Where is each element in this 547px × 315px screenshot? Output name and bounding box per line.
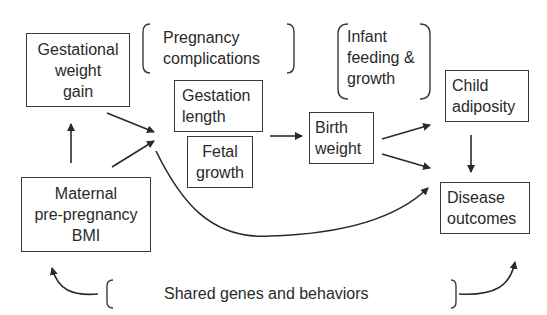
node-label: Disease outcomes <box>447 187 516 229</box>
node-label: Birth weight <box>315 117 361 159</box>
factor-shared-genes-behaviors: Shared genes and behaviors <box>164 283 369 304</box>
bracket-right-shared <box>451 280 456 308</box>
bracket-left-pregnancy <box>143 24 150 73</box>
node-disease-outcomes: Disease outcomes <box>440 182 530 234</box>
arrow-shared-to-disease <box>459 262 515 294</box>
node-fetal-growth: Fetal growth <box>187 136 253 188</box>
node-maternal-bmi: Maternal pre-pregnancy BMI <box>21 177 151 252</box>
node-label: Child adiposity <box>452 75 515 117</box>
node-child-adiposity: Child adiposity <box>445 70 529 122</box>
factor-infant-feeding-growth: Infant feeding & growth <box>347 26 415 89</box>
arrow-bmi-to-gestation <box>112 141 154 167</box>
node-gestation-length: Gestation length <box>174 80 263 132</box>
factor-pregnancy-complications: Pregnancy complications <box>163 27 260 69</box>
arrow-birthweight-to-disease <box>382 154 430 168</box>
node-label: Gestational weight gain <box>38 39 119 102</box>
bracket-right-infant <box>420 24 430 99</box>
arrow-gwg-to-gestation <box>107 113 154 132</box>
node-label: Maternal pre-pregnancy BMI <box>34 183 137 246</box>
arrow-shared-to-bmi <box>52 268 98 294</box>
arrow-birthweight-to-adiposity <box>382 125 430 139</box>
bracket-left-shared <box>107 280 113 308</box>
bracket-right-pregnancy <box>287 24 294 73</box>
node-label: Fetal growth <box>196 141 244 183</box>
node-gestational-weight-gain: Gestational weight gain <box>26 33 130 107</box>
node-birth-weight: Birth weight <box>309 112 374 164</box>
node-label: Gestation length <box>182 85 250 127</box>
